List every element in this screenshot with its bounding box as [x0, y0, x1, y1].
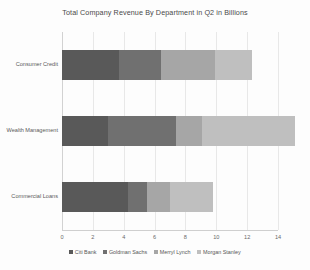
bar-segment[interactable]: [108, 116, 176, 146]
bar-segment[interactable]: [62, 182, 128, 212]
legend-swatch-icon: [69, 250, 73, 254]
y-axis-tick-label: Commercial Loans: [11, 193, 58, 199]
legend-label: Goldman Sachs: [109, 249, 147, 255]
plot-area: [62, 32, 278, 230]
y-axis-tick-label: Consumer Credit: [16, 61, 58, 67]
legend-label: Morgan Stanley: [203, 249, 241, 255]
bar-segment[interactable]: [215, 50, 252, 80]
legend-label: Citi Bank: [75, 249, 97, 255]
bar-segment[interactable]: [62, 116, 108, 146]
bar-stack[interactable]: [62, 116, 295, 146]
bar-segment[interactable]: [62, 50, 119, 80]
legend-item[interactable]: Merryl Lynch: [154, 249, 190, 255]
x-axis-tick-label: 0: [54, 234, 70, 240]
chart-container: Total Company Revenue By Department in Q…: [0, 0, 310, 270]
x-axis-tick-label: 6: [147, 234, 163, 240]
bar-segment[interactable]: [170, 182, 213, 212]
x-axis-tick-label: 10: [208, 234, 224, 240]
y-axis-labels: Consumer CreditWealth ManagementCommerci…: [0, 32, 62, 230]
x-axis-tick-label: 4: [116, 234, 132, 240]
bar-stack[interactable]: [62, 50, 252, 80]
legend-item[interactable]: Goldman Sachs: [103, 249, 147, 255]
x-axis-tick-label: 2: [85, 234, 101, 240]
legend-item[interactable]: Morgan Stanley: [197, 249, 240, 255]
bar-segment[interactable]: [147, 182, 170, 212]
legend-item[interactable]: Citi Bank: [69, 249, 96, 255]
bar-stack[interactable]: [62, 182, 213, 212]
legend-label: Merryl Lynch: [160, 249, 191, 255]
x-axis-tick-label: 14: [270, 234, 286, 240]
legend-swatch-icon: [103, 250, 107, 254]
bar-segment[interactable]: [176, 116, 202, 146]
bar-segment[interactable]: [119, 50, 161, 80]
bar-segment[interactable]: [128, 182, 147, 212]
chart-title: Total Company Revenue By Department in Q…: [0, 8, 310, 17]
legend-swatch-icon: [154, 250, 158, 254]
legend-swatch-icon: [197, 250, 201, 254]
y-axis-tick-label: Wealth Management: [6, 127, 58, 133]
x-axis-line: [62, 230, 278, 231]
bar-segment[interactable]: [202, 116, 295, 146]
chart-legend: Citi BankGoldman SachsMerryl LynchMorgan…: [0, 249, 310, 255]
x-axis-tick-label: 8: [177, 234, 193, 240]
x-axis-tick-label: 12: [239, 234, 255, 240]
bar-segment[interactable]: [161, 50, 215, 80]
